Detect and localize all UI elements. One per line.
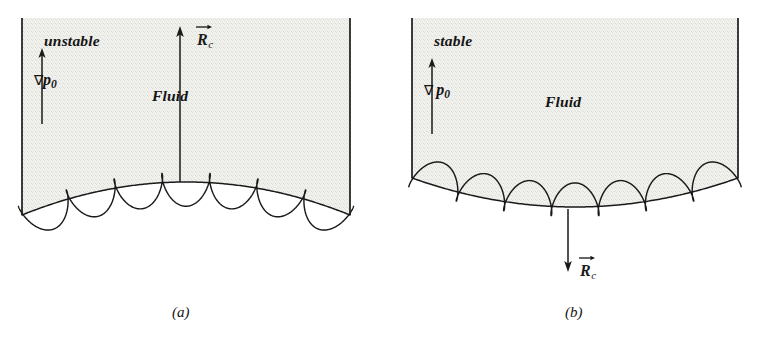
panel-b-gradient-symbol: p <box>436 81 444 98</box>
panel-b-pressure-gradient-label: ∇ p0 <box>424 82 450 101</box>
panel-b-gradient-subscript: 0 <box>444 88 450 100</box>
panel-b-stability-label: stable <box>434 33 472 49</box>
nabla-icon: ∇ <box>424 83 433 98</box>
fluid-instability-figure: unstable Fluid ∇p0 Rc (a) stable Fluid ∇… <box>0 0 759 338</box>
panel-b-curvature-vector-label: Rc <box>580 262 596 281</box>
panel-b-vector-symbol: R <box>580 262 591 279</box>
panel-b-graphic <box>0 0 759 338</box>
panel-b-fluid-label: Fluid <box>545 94 581 110</box>
vector-arrow-icon <box>579 254 595 261</box>
panel-b-caption: (b) <box>565 305 583 320</box>
panel-b-vector-subscript: c <box>591 269 596 281</box>
